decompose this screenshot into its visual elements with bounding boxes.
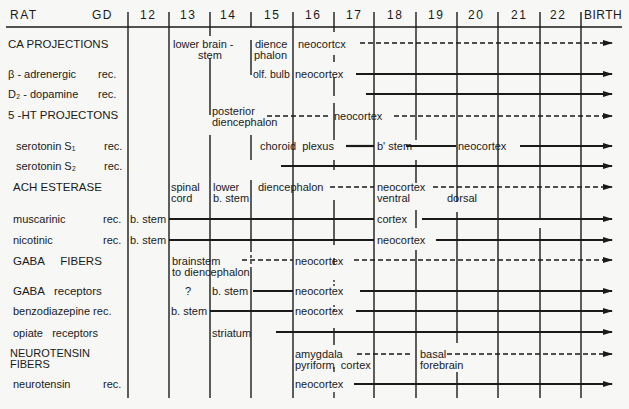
row-suffix: rec. xyxy=(104,160,122,172)
annotation-pyriform-cortex: pyriform cortex xyxy=(295,359,371,371)
row-label-neurotensin-rec: neurotensin xyxy=(13,378,71,390)
row-label-serotonin-s1: serotonin S₁ xyxy=(16,140,75,152)
row-suffix: rec. xyxy=(103,213,121,225)
annotation-ventral: ventral xyxy=(377,192,410,204)
row-label-benzodiazepine: benzodiazepine rec. xyxy=(13,305,111,317)
day-17: 17 xyxy=(346,8,362,22)
day-19: 19 xyxy=(428,8,444,22)
day-15: 15 xyxy=(264,8,280,22)
gd-label: GD xyxy=(92,8,113,22)
annotation-neocortex: neocortex xyxy=(295,255,343,267)
annotation-neocortex: neocortex xyxy=(334,110,382,122)
rat-label: RAT xyxy=(10,8,38,22)
row-suffix: rec. xyxy=(103,234,121,246)
day-22: 22 xyxy=(550,8,566,22)
day-21: 21 xyxy=(511,8,527,22)
annotation-olf-bulb: olf. bulb xyxy=(253,68,290,80)
row-label-ca-projections: CA PROJECTIONS xyxy=(8,38,108,50)
annotation-neocortex: neocortcx xyxy=(298,38,346,50)
annotation-diencephalon-2: phalon xyxy=(254,49,287,61)
annotation-diencephalon: diencephalon xyxy=(258,181,323,193)
day-14: 14 xyxy=(220,8,236,22)
day-16: 16 xyxy=(305,8,321,22)
day-20: 20 xyxy=(468,8,484,22)
row-label-muscarinic: muscarinic xyxy=(13,213,66,225)
row-suffix: rec. xyxy=(104,140,122,152)
annotation-diencephalon: diencephalon xyxy=(212,116,277,128)
row-label-nicotinic: nicotinic xyxy=(13,234,53,246)
annotation-bstem: b. stem xyxy=(130,213,166,225)
row-label-neurotensin-fibers-line2: FIBERS xyxy=(10,358,50,370)
row-label-5ht-projections: 5 -HT PROJECTONS xyxy=(8,109,118,121)
annotation-neocortex: neocortex xyxy=(295,378,343,390)
row-suffix: rec. xyxy=(98,88,116,100)
annotation-bstem: b. stem xyxy=(212,285,248,297)
annotation-bstem: b' stem xyxy=(377,140,412,152)
annotation-neocortex: neocortex xyxy=(458,140,506,152)
annotation-bstem: b. stem xyxy=(130,234,166,246)
annotation-striatum: striatum xyxy=(212,327,251,339)
day-18: 18 xyxy=(387,8,403,22)
annotation-to-diencephalon: to diencephalon xyxy=(172,266,250,278)
annotation-bstem: b. stem xyxy=(213,192,249,204)
row-label-ach-esterase: ACH ESTERASE xyxy=(13,181,102,193)
annotation-neocortex: neocortex xyxy=(377,234,425,246)
row-label-d2-dopamine: D₂ - dopamine xyxy=(8,88,78,100)
row-label-gaba-receptors: GABA receptors xyxy=(13,285,102,297)
annotation-dorsal: dorsal xyxy=(447,192,477,204)
annotation-neocortex: neocortex xyxy=(295,305,343,317)
development-timeline-figure: RAT GD 12 13 14 15 16 17 18 19 20 21 22 … xyxy=(0,0,629,409)
row-label-gaba-fibers: GABA FIBERS xyxy=(13,255,102,267)
row-label-beta-adrenergic: β - adrenergic xyxy=(8,68,76,80)
annotation-cord: cord xyxy=(171,192,192,204)
day-13: 13 xyxy=(180,8,196,22)
annotation-forebrain: forebrain xyxy=(420,359,463,371)
day-12: 12 xyxy=(140,8,156,22)
row-suffix: rec. xyxy=(98,68,116,80)
annotation-stem: stem xyxy=(198,49,222,61)
annotation-choroid-plexus: choroid plexus xyxy=(260,140,334,152)
row-label-opiate-receptors: opiate receptors xyxy=(13,327,98,339)
row-suffix: rec. xyxy=(103,378,121,390)
annotation-neocortex: neocortex xyxy=(295,68,343,80)
annotation-cortex: cortex xyxy=(377,213,407,225)
birth-label: BIRTH xyxy=(584,8,622,22)
annotation-unknown: ? xyxy=(185,285,191,297)
row-label-serotonin-s2: serotonin S₂ xyxy=(16,160,76,172)
annotation-neocortex: neocortex xyxy=(295,285,343,297)
annotation-bstem: b. stem xyxy=(171,305,207,317)
